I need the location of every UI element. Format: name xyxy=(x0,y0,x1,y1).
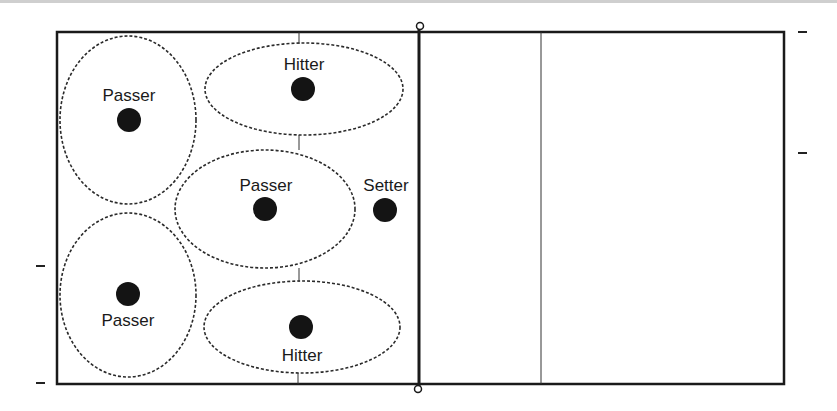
player-passer-icon xyxy=(117,108,141,132)
label-passer: Passer xyxy=(102,311,155,330)
player-passer-icon xyxy=(116,282,140,306)
player-setter-icon xyxy=(373,198,397,222)
label-hitter: Hitter xyxy=(284,55,325,74)
player-hitter-icon xyxy=(289,315,313,339)
label-hitter: Hitter xyxy=(282,346,323,365)
label-setter: Setter xyxy=(363,176,409,195)
volleyball-court-diagram: Passer Hitter Passer Setter Passer Hitte… xyxy=(0,0,837,411)
net-post-top-icon xyxy=(417,23,424,30)
player-hitter-icon xyxy=(291,77,315,101)
label-passer: Passer xyxy=(240,176,293,195)
player-passer-icon xyxy=(253,197,277,221)
net-post-bottom-icon xyxy=(415,386,422,393)
label-passer: Passer xyxy=(103,86,156,105)
